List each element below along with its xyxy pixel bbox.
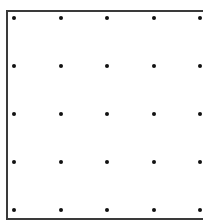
grid-dot [59,64,63,68]
grid-dot [198,160,202,164]
grid-dot [12,112,16,116]
grid-dot [59,208,63,212]
grid-dot [59,16,63,20]
grid-dot [198,208,202,212]
grid-dot [198,112,202,116]
grid-dot [59,112,63,116]
grid-dot [12,16,16,20]
grid-dot [105,208,109,212]
grid-dot [152,64,156,68]
grid-dot [105,64,109,68]
grid-dot [12,64,16,68]
grid-dot [198,64,202,68]
grid-dot [59,160,63,164]
grid-dot [198,16,202,20]
grid-dot [152,160,156,164]
dot-grid [0,0,203,222]
grid-dot [152,16,156,20]
grid-dot [12,160,16,164]
grid-dot [105,160,109,164]
grid-dot [105,112,109,116]
grid-dot [152,208,156,212]
grid-dot [105,16,109,20]
grid-dot [12,208,16,212]
grid-dot [152,112,156,116]
